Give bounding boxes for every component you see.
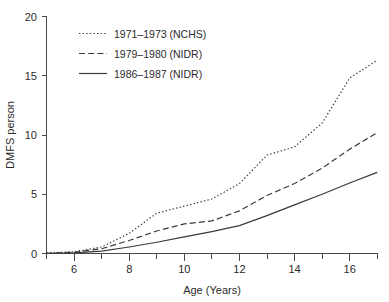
legend-label-2: 1986–1987 (NIDR) <box>114 68 202 80</box>
x-axis-ticks: 6 8 10 12 14 16 <box>47 254 378 276</box>
y-tick-label-0: 0 <box>31 248 37 260</box>
x-tick-label-6: 6 <box>71 263 77 275</box>
series-line-1979-1980-nidr <box>47 133 378 254</box>
y-tick-label-5: 5 <box>31 188 37 200</box>
x-axis-title: Age (Years) <box>183 284 241 296</box>
y-axis-title: DMFS person <box>4 101 16 169</box>
y-axis-ticks: 20 15 10 5 0 <box>25 11 47 260</box>
y-tick-label-20: 20 <box>25 11 37 23</box>
series-line-1971-1973-nchs <box>47 60 378 253</box>
x-tick-label-10: 10 <box>178 263 190 275</box>
series-group <box>47 60 378 253</box>
x-tick-label-14: 14 <box>288 263 300 275</box>
x-tick-label-8: 8 <box>126 263 132 275</box>
axes-group <box>47 17 378 254</box>
series-line-1986-1987-nidr <box>47 172 378 253</box>
y-tick-label-10: 10 <box>25 129 37 141</box>
legend-label-1: 1979–1980 (NIDR) <box>114 48 202 60</box>
y-tick-label-15: 15 <box>25 70 37 82</box>
dmfs-by-age-line-chart: 20 15 10 5 0 6 8 10 12 14 16 <box>0 0 389 302</box>
x-tick-label-16: 16 <box>344 263 356 275</box>
legend: 1971–1973 (NCHS) 1979–1980 (NIDR) 1986–1… <box>79 28 206 80</box>
chart-page: 20 15 10 5 0 6 8 10 12 14 16 <box>0 0 389 302</box>
legend-label-0: 1971–1973 (NCHS) <box>114 28 206 40</box>
x-tick-label-12: 12 <box>233 263 245 275</box>
